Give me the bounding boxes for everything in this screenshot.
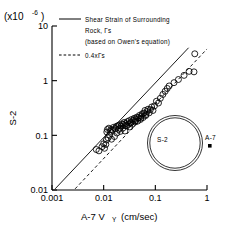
x-axis-units: (cm/sec) <box>121 211 157 222</box>
y-tick-label: 1 <box>43 76 48 86</box>
data-point-marker <box>171 80 177 86</box>
x-tick-label: 0.01 <box>95 193 113 203</box>
marker-legend-outer-circle <box>148 116 203 171</box>
y-axis-ticks <box>52 26 57 190</box>
marker-legend-filled-square <box>208 144 212 148</box>
y-multiplier-exponent: -6 <box>32 9 38 16</box>
chart-legend: Shear Strain of Surrounding Rock, Γs (ba… <box>59 16 170 59</box>
y-axis-tick-labels: 1010.10.01 <box>30 21 48 195</box>
marker-legend-label-s2: S-2 <box>157 136 168 143</box>
x-tick-label: 1 <box>204 193 209 203</box>
axes-frame <box>52 26 207 190</box>
legend-solid-label-line1: Shear Strain of Surrounding <box>85 16 170 24</box>
marker-legend: S-2 A-7 <box>148 116 217 171</box>
marker-legend-label-a7: A-7 <box>205 134 216 141</box>
x-axis-tick-labels: 0.0010.010.11 <box>41 193 210 203</box>
legend-solid-label-line2: Rock, Γs <box>85 27 111 34</box>
x-axis-title-subscript: Y <box>112 216 117 223</box>
marker-legend-inner-circle <box>150 118 200 168</box>
y-multiplier-close: ) <box>41 11 44 22</box>
y-multiplier-open: (x10 <box>4 11 24 22</box>
chart-figure: 1010.10.01 0.0010.010.11 (x10 -6 ) S-2 A… <box>0 0 225 226</box>
x-tick-label: 0.001 <box>41 193 64 203</box>
scatter-plot-svg: 1010.10.01 0.0010.010.11 (x10 -6 ) S-2 A… <box>0 0 225 226</box>
legend-dashed-label: 0.4xΓs <box>85 52 105 59</box>
x-tick-label: 0.1 <box>149 193 162 203</box>
data-point-marker <box>175 77 181 83</box>
x-axis-title: A-7 V <box>81 211 105 222</box>
y-axis-title: S-2 <box>7 111 18 126</box>
y-axis-multiplier-note: (x10 -6 ) <box>4 9 44 22</box>
x-axis-ticks <box>52 185 207 190</box>
data-points <box>93 51 197 154</box>
data-point-marker <box>192 51 198 57</box>
x-axis-title-group: A-7 V Y (cm/sec) <box>81 211 157 223</box>
y-tick-label: 10 <box>38 21 48 31</box>
y-tick-label: 0.1 <box>35 131 48 141</box>
legend-solid-label-line3: (based on Owen's equation) <box>85 38 170 46</box>
